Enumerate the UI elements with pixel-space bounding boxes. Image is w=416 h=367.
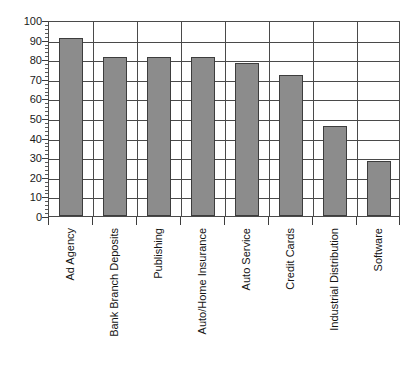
y-axis-tick-labels: 0102030405060708090100 <box>14 0 42 367</box>
y-axis-tick-label: 60 <box>16 94 42 104</box>
x-axis-label-slot: Ad Agency <box>48 228 92 363</box>
bar <box>367 161 392 216</box>
y-axis-tick-label: 10 <box>16 192 42 202</box>
x-axis-category-label: Credit Cards <box>284 228 296 290</box>
bar-chart: 0102030405060708090100 Ad AgencyBank Bra… <box>0 0 416 367</box>
bar <box>279 75 304 216</box>
plot-area <box>48 21 400 217</box>
x-axis-label-slot: Credit Cards <box>268 228 312 363</box>
y-axis-tick-label: 90 <box>16 36 42 46</box>
gridline-vertical <box>137 22 138 216</box>
x-axis-category-label: Industrial Distribution <box>328 228 340 331</box>
bar <box>235 63 260 216</box>
x-axis-label-slot: Auto/Home Insurance <box>180 228 224 363</box>
x-axis-tick <box>356 217 357 225</box>
x-axis-category-label: Auto/Home Insurance <box>196 228 208 334</box>
x-axis-label-slot: Industrial Distribution <box>312 228 356 363</box>
bar <box>59 38 84 216</box>
x-axis-label-slot: Publishing <box>136 228 180 363</box>
bar <box>103 57 128 216</box>
gridline-vertical <box>225 22 226 216</box>
y-axis-tick-label: 70 <box>16 75 42 85</box>
x-axis-category-label: Publishing <box>152 228 164 279</box>
y-axis-tick-label: 50 <box>16 114 42 124</box>
y-axis-tick-label: 40 <box>16 134 42 144</box>
gridline-horizontal <box>49 61 399 62</box>
x-axis-category-label: Auto Service <box>240 228 252 290</box>
gridline-horizontal <box>49 120 399 121</box>
x-axis-label-slot: Bank Branch Deposits <box>92 228 136 363</box>
x-axis-tick <box>224 217 225 225</box>
x-axis-tick <box>136 217 137 225</box>
x-axis-category-label: Bank Branch Deposits <box>108 228 120 337</box>
gridline-vertical <box>181 22 182 216</box>
y-axis-tick-label: 20 <box>16 173 42 183</box>
gridline-horizontal <box>49 81 399 82</box>
bar <box>191 57 216 216</box>
gridline-vertical <box>357 22 358 216</box>
bar <box>323 126 348 216</box>
y-axis-tick-label: 30 <box>16 153 42 163</box>
x-axis-tick <box>48 217 49 225</box>
y-axis-tick-label: 0 <box>16 212 42 222</box>
x-axis-label-slot: Auto Service <box>224 228 268 363</box>
y-axis-tick-label: 80 <box>16 55 42 65</box>
x-axis-ticks <box>48 217 400 226</box>
x-axis-tick <box>180 217 181 225</box>
x-axis-tick <box>268 217 269 225</box>
x-axis-category-label: Ad Agency <box>64 228 76 281</box>
x-axis-tick <box>92 217 93 225</box>
y-axis-tick-label: 100 <box>16 16 42 26</box>
gridline-vertical <box>269 22 270 216</box>
gridline-vertical <box>93 22 94 216</box>
x-axis-category-labels: Ad AgencyBank Branch DepositsPublishingA… <box>48 228 400 363</box>
bar <box>147 57 172 216</box>
x-axis-tick <box>399 217 400 225</box>
gridline-horizontal <box>49 42 399 43</box>
x-axis-label-slot: Software <box>356 228 400 363</box>
x-axis-tick <box>312 217 313 225</box>
gridline-horizontal <box>49 100 399 101</box>
x-axis-category-label: Software <box>372 228 384 271</box>
gridline-vertical <box>313 22 314 216</box>
